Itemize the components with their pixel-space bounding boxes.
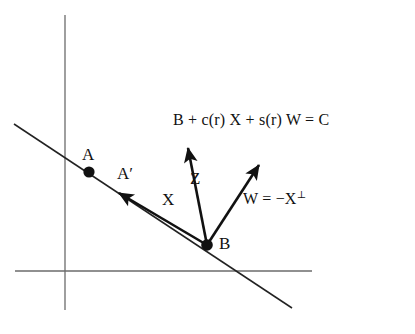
point-a-dot	[83, 166, 94, 177]
vector-diagram-svg	[0, 0, 415, 334]
perpendicular-symbol-icon: ⊥	[297, 189, 307, 200]
label-vector-z: Z	[190, 170, 200, 187]
label-equation: B + c(r) X + s(r) W = C	[173, 112, 329, 128]
label-vector-w: W = −X⊥	[243, 191, 306, 207]
label-point-b: B	[219, 235, 230, 252]
oblique-line	[14, 124, 292, 308]
point-b-dot	[201, 239, 213, 251]
label-point-a: A	[82, 146, 94, 163]
label-vector-x: X	[162, 191, 174, 208]
label-vector-w-base: W = −X	[243, 190, 297, 207]
diagram-canvas: A A′ X Z B B + c(r) X + s(r) W = C W = −…	[0, 0, 415, 334]
label-point-a-prime: A′	[117, 165, 133, 182]
vector-z-arrow	[188, 148, 207, 245]
